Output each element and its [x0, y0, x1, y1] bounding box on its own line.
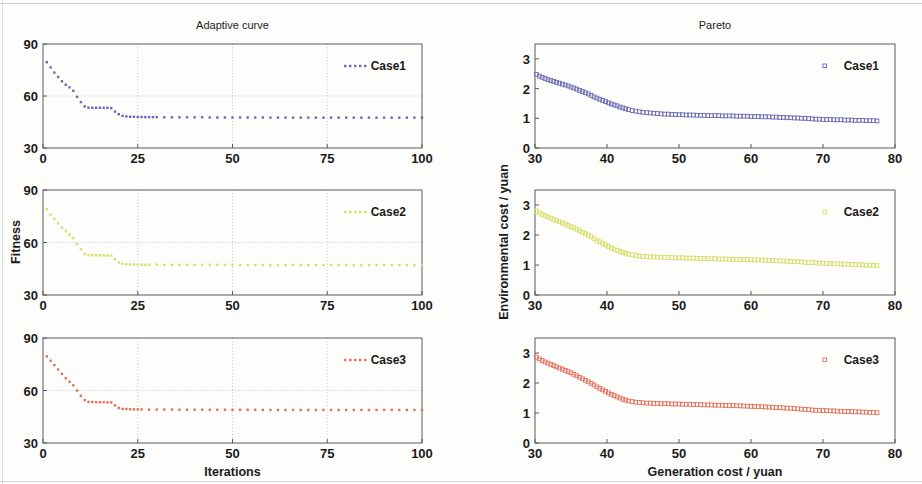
data-marker [390, 264, 392, 266]
data-marker [83, 105, 85, 107]
x-tick-label: 50 [225, 298, 239, 313]
data-marker [209, 116, 211, 118]
data-marker [292, 116, 294, 118]
data-marker [163, 264, 165, 266]
data-marker [216, 409, 218, 411]
data-marker [186, 116, 188, 118]
data-marker [87, 254, 89, 256]
legend-marker [364, 211, 366, 213]
data-marker [330, 116, 332, 118]
x-tick-label: 100 [411, 151, 433, 166]
data-marker [413, 264, 415, 266]
data-marker [368, 409, 370, 411]
y-axis-label-right: Environmental cost / yuan [497, 164, 511, 320]
data-marker [262, 409, 264, 411]
data-marker [284, 116, 286, 118]
legend-marker [364, 359, 366, 361]
legend-marker [344, 211, 346, 213]
data-marker [254, 116, 256, 118]
data-marker [178, 264, 180, 266]
data-marker [152, 116, 154, 118]
y-tick-label: 3 [523, 52, 530, 67]
data-marker [118, 407, 120, 409]
data-marker [269, 116, 271, 118]
data-marker [61, 80, 63, 82]
x-tick-label: 0 [39, 298, 46, 313]
legend-label: Case2 [371, 205, 407, 219]
y-tick-label: 2 [523, 82, 530, 97]
legend-marker [354, 359, 356, 361]
data-marker [300, 116, 302, 118]
data-marker [133, 116, 135, 118]
data-marker [99, 254, 101, 256]
data-marker [406, 116, 408, 118]
data-marker [53, 218, 55, 220]
data-marker [368, 264, 370, 266]
data-marker [156, 408, 158, 410]
y-tick-label: 1 [523, 111, 530, 126]
y-tick-label: 30 [24, 436, 38, 451]
legend-adaptive-case3: Case3 [344, 353, 406, 367]
legend-marker [823, 358, 827, 362]
data-marker [57, 368, 59, 370]
data-marker [216, 116, 218, 118]
y-tick-label: 60 [24, 384, 38, 399]
data-marker [292, 409, 294, 411]
data-marker [91, 401, 93, 403]
data-marker [125, 263, 127, 265]
data-marker [178, 409, 180, 411]
y-tick-label: 30 [24, 288, 38, 303]
data-marker [193, 116, 195, 118]
data-marker [76, 389, 78, 391]
data-marker [53, 364, 55, 366]
data-marker [148, 264, 150, 266]
y-tick-label: 0 [523, 141, 530, 156]
data-marker [413, 116, 415, 118]
data-marker [106, 254, 108, 256]
data-marker [360, 116, 362, 118]
data-marker [375, 409, 377, 411]
data-marker [49, 360, 51, 362]
x-tick-label: 60 [744, 298, 758, 313]
data-marker [110, 401, 112, 403]
legend-label: Case1 [371, 59, 407, 73]
data-marker [102, 107, 104, 109]
y-tick-label: 90 [24, 331, 38, 346]
legend-marker [359, 359, 361, 361]
data-marker [99, 401, 101, 403]
x-tick-label: 0 [39, 151, 46, 166]
legend-adaptive-case1: Case1 [344, 59, 406, 73]
data-marker [137, 263, 139, 265]
data-marker [277, 409, 279, 411]
panel-pareto-case2: 3040506070800123Case2 [523, 190, 902, 313]
data-marker [262, 264, 264, 266]
x-tick-label: 80 [888, 298, 902, 313]
data-marker [106, 107, 108, 109]
x-tick-label: 75 [320, 446, 334, 461]
legend-marker [344, 65, 346, 67]
data-marker [80, 395, 82, 397]
data-marker [269, 409, 271, 411]
series-case1 [535, 72, 879, 122]
data-marker [65, 84, 67, 86]
data-marker [277, 116, 279, 118]
data-marker [125, 115, 127, 117]
data-marker [99, 107, 101, 109]
data-marker [140, 408, 142, 410]
data-marker [315, 264, 317, 266]
x-tick-label: 80 [888, 446, 902, 461]
data-marker [353, 409, 355, 411]
data-marker [140, 264, 142, 266]
data-marker [106, 401, 108, 403]
data-marker [262, 116, 264, 118]
data-marker [76, 243, 78, 245]
data-marker [171, 116, 173, 118]
series-case2 [46, 208, 424, 266]
data-marker [137, 116, 139, 118]
data-marker [231, 116, 233, 118]
y-tick-label: 0 [523, 288, 530, 303]
data-marker [125, 408, 127, 410]
data-marker [49, 66, 51, 68]
data-marker [148, 408, 150, 410]
data-marker [209, 264, 211, 266]
